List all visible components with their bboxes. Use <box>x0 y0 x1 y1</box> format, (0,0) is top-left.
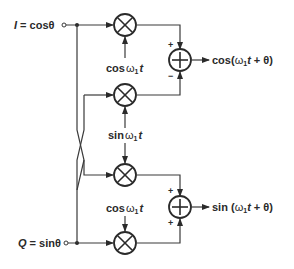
lo-cos-top: cosω1t <box>106 37 144 75</box>
adder-2-output-label: sin (ω1t + θ) <box>212 201 273 214</box>
input-i-terminal <box>62 23 66 27</box>
mixer-3 <box>114 164 136 186</box>
lo-sin-middle: sinω1t <box>108 107 143 163</box>
svg-text:I = cosθ: I = cosθ <box>14 19 55 31</box>
svg-text:Q = sinθ: Q = sinθ <box>18 237 61 249</box>
wire-m2-adder1 <box>136 72 180 95</box>
svg-text:cosω1t: cosω1t <box>106 62 144 75</box>
adder-1-minus: − <box>168 71 173 81</box>
adder-2: + + sin (ω1t + θ) <box>168 186 273 228</box>
wire-m4-adder2 <box>136 219 180 243</box>
mixer-1 <box>114 14 136 36</box>
adder-2-plus-bottom: + <box>168 218 173 228</box>
input-i-eq: = cosθ <box>17 19 54 31</box>
adder-2-plus-top: + <box>168 186 173 196</box>
adder-1-output-label: cos(ω1t + θ) <box>212 54 273 67</box>
input-q-eq: = sinθ <box>27 237 61 249</box>
diagram-canvas: I = cosθ Q = sinθ <box>0 0 294 269</box>
adder-1: + − cos(ω1t + θ) <box>168 40 273 81</box>
svg-text:sinω1t: sinω1t <box>108 129 143 142</box>
wire-m3-adder2 <box>136 175 180 196</box>
svg-text:cosω1t: cosω1t <box>106 202 144 215</box>
adder-1-plus: + <box>168 40 173 50</box>
mixer-2 <box>114 84 136 106</box>
input-q: Q = sinθ <box>18 237 113 249</box>
mixer-4 <box>114 232 136 254</box>
input-q-terminal <box>64 241 68 245</box>
lo-cos-bottom: cosω1t <box>106 202 144 231</box>
wire-m1-adder1 <box>136 25 180 49</box>
input-i: I = cosθ <box>14 19 113 31</box>
